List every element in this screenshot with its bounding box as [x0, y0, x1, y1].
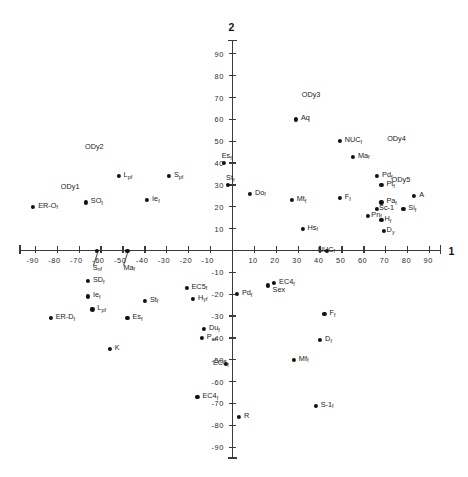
data-point-marker [401, 207, 405, 211]
data-point-marker [338, 139, 342, 143]
x-axis-right-cap [440, 245, 441, 254]
data-point-label: ER-Of [38, 202, 58, 209]
x-tick-label: 70 [380, 256, 389, 265]
data-point-label-subscript: f [393, 183, 395, 189]
y-tick [229, 447, 236, 448]
data-point-label-subscript: f [293, 281, 295, 287]
y-tick-label: 30 [215, 181, 224, 190]
x-tick-label: 20 [270, 256, 279, 265]
data-point-marker [145, 198, 149, 202]
data-point-label: EC4f [279, 278, 295, 285]
data-point-marker [125, 248, 129, 252]
data-point-marker [338, 196, 342, 200]
data-point-label: EC5f [192, 283, 208, 290]
x-tick [276, 246, 277, 253]
y-tick [229, 272, 236, 273]
y-tick-label: 60 [215, 115, 224, 124]
data-point-marker [86, 279, 90, 283]
data-point-label: NUCf [318, 246, 335, 253]
data-point-label: Dof [255, 189, 266, 196]
y-tick [229, 141, 236, 142]
data-point-label-subscript: pf [179, 174, 184, 180]
data-point-marker [314, 404, 318, 408]
data-point-label-subscript: f [157, 298, 159, 304]
y-tick [229, 359, 236, 360]
data-point-label-subscript: f [333, 248, 335, 254]
data-point-marker [31, 205, 35, 209]
scatter-plot: 1 2 -90-80-70-60-50-40-30-20-10102030405… [0, 0, 468, 477]
data-point-marker [412, 194, 416, 198]
data-point-label: Maf [358, 152, 370, 159]
data-point-label-subscript: f [233, 177, 235, 183]
data-point-label-subscript: f [349, 196, 351, 202]
data-point-label-subscript: y [392, 229, 395, 235]
x-tick-label: -40 [136, 256, 148, 265]
y-tick-label: -30 [212, 312, 224, 321]
y-tick [229, 53, 236, 54]
y-tick-label: -90 [212, 443, 224, 452]
data-point-label-subscript: f [307, 357, 309, 363]
data-point-label-subscript: f [56, 204, 58, 210]
y-axis-top-cap [228, 40, 237, 41]
x-tick-label: 90 [424, 256, 433, 265]
data-point-label: Paf [207, 333, 216, 340]
y-tick [229, 228, 236, 229]
data-point-label: SOf [91, 197, 103, 204]
data-point-label: Stf [226, 174, 234, 181]
data-point-label-subscript: f [251, 292, 253, 298]
y-tick-label: 20 [215, 203, 224, 212]
data-point-marker [222, 161, 226, 165]
x-tick [166, 246, 167, 253]
data-point-marker [167, 174, 171, 178]
data-point-label-subscript: nf [98, 266, 103, 272]
x-axis-label: 1 [449, 245, 455, 257]
data-point-marker [379, 183, 383, 187]
data-point-label-subscript: f [134, 266, 136, 272]
data-point-label-subscript: af [212, 336, 217, 342]
y-tick [229, 184, 236, 185]
data-point-label: Hyf [198, 294, 207, 301]
data-point-marker [322, 312, 326, 316]
data-point-label-subscript: f [227, 362, 229, 368]
data-point-label: Ief [93, 291, 101, 298]
y-tick [229, 119, 236, 120]
x-tick [122, 246, 123, 253]
data-point-label: NUCf [345, 136, 362, 143]
data-point-label-subscript: f [264, 191, 266, 197]
y-tick [229, 75, 236, 76]
data-point-marker [379, 218, 383, 222]
data-point-label-subscript: f [332, 403, 334, 409]
y-tick [229, 403, 236, 404]
data-point-label: EC6f [213, 359, 229, 366]
data-point-label: Ptf [386, 180, 394, 187]
y-axis-line [232, 41, 234, 458]
data-point-label-subscript: f [74, 316, 76, 322]
data-point-label-subscript: f [99, 294, 101, 300]
data-point-label: Stf [150, 296, 158, 303]
x-tick-label: 80 [402, 256, 411, 265]
data-point-label: Ief [152, 195, 160, 202]
y-tick-label: 70 [215, 94, 224, 103]
data-point-label: Pdf [242, 289, 252, 296]
data-point-marker [117, 174, 121, 178]
y-tick-label: 10 [215, 225, 224, 234]
data-point-label-subscript: f [361, 139, 363, 145]
data-point-label-subscript: f [368, 154, 370, 160]
x-axis-line [20, 250, 440, 252]
data-point-label-subscript: pf [101, 307, 106, 313]
data-point-label: Mff [299, 355, 309, 362]
data-point-marker [86, 294, 90, 298]
data-point-label: Aq [301, 114, 310, 121]
data-point-marker [351, 154, 355, 158]
data-point-label: Hf [384, 215, 391, 222]
y-tick-label: 90 [215, 50, 224, 59]
data-point-marker [265, 283, 269, 287]
data-point-label-subscript: f [218, 327, 220, 333]
data-point-label: A [419, 191, 424, 198]
data-point-label-subscript: f [230, 155, 232, 161]
data-point-label-subscript: f [395, 200, 397, 206]
x-tick [341, 246, 342, 253]
data-point-label: Sif [408, 204, 416, 211]
data-point-label: Spf [174, 171, 183, 178]
y-tick [229, 425, 236, 426]
